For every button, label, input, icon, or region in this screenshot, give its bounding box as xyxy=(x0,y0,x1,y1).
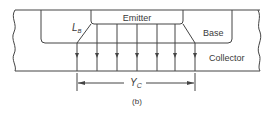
right-break-edge xyxy=(258,10,261,71)
bjt-cross-section-diagram: Emitter Base Collector LB YC (b) xyxy=(0,0,274,116)
arrow-down-icon xyxy=(173,53,177,58)
lateral-spread-right xyxy=(183,24,195,43)
arrow-down-icon xyxy=(155,53,159,58)
arrow-down-icon xyxy=(75,53,79,58)
arrow-down-icon xyxy=(193,53,197,58)
arrow-down-icon xyxy=(135,53,139,58)
arrow-right-icon xyxy=(187,81,194,85)
yc-subscript: C xyxy=(137,82,143,89)
figure-caption: (b) xyxy=(132,97,142,106)
yc-label: YC xyxy=(130,77,143,89)
arrow-down-icon xyxy=(95,53,99,58)
lb-subscript: B xyxy=(78,28,82,34)
collector-label: Collector xyxy=(209,53,245,63)
arrow-down-icon xyxy=(115,53,119,58)
base-label: Base xyxy=(203,28,224,38)
left-break-edge xyxy=(13,10,16,71)
arrow-left-icon xyxy=(78,81,85,85)
lb-label: LB xyxy=(72,22,82,34)
emitter-label: Emitter xyxy=(123,13,152,23)
